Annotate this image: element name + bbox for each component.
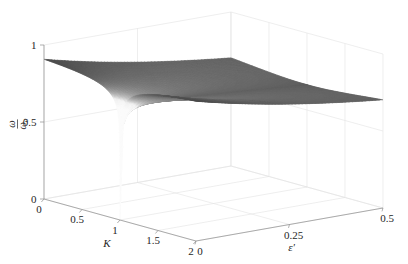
- surface-plot-figure: 00.5100.511.5200.250.5Kε'ωω₀: [0, 0, 408, 264]
- x-tick-4: 2: [188, 245, 194, 257]
- z-tick-2: 1: [31, 39, 37, 51]
- x-tick-1: 0.5: [70, 213, 84, 225]
- surface-mesh: [44, 58, 383, 220]
- y-tick-2: 0.5: [380, 212, 394, 224]
- x-tick-2: 1: [112, 224, 118, 236]
- x-tick-0: 0: [36, 203, 42, 215]
- surface-plot-canvas: 00.5100.511.5200.250.5Kε'ωω₀: [0, 0, 408, 264]
- z-axis-title: ωω₀: [6, 118, 28, 129]
- z-axis-title-numerator: ω: [6, 120, 17, 127]
- z-axis-title-denominator: ω₀: [17, 118, 28, 129]
- plot-gridlines: [44, 12, 383, 241]
- x-axis-title: K: [102, 237, 111, 249]
- y-tick-1: 0.25: [284, 229, 304, 241]
- y-tick-0: 0: [197, 245, 203, 257]
- y-axis-title: ε': [288, 241, 295, 253]
- x-tick-3: 1.5: [146, 234, 160, 246]
